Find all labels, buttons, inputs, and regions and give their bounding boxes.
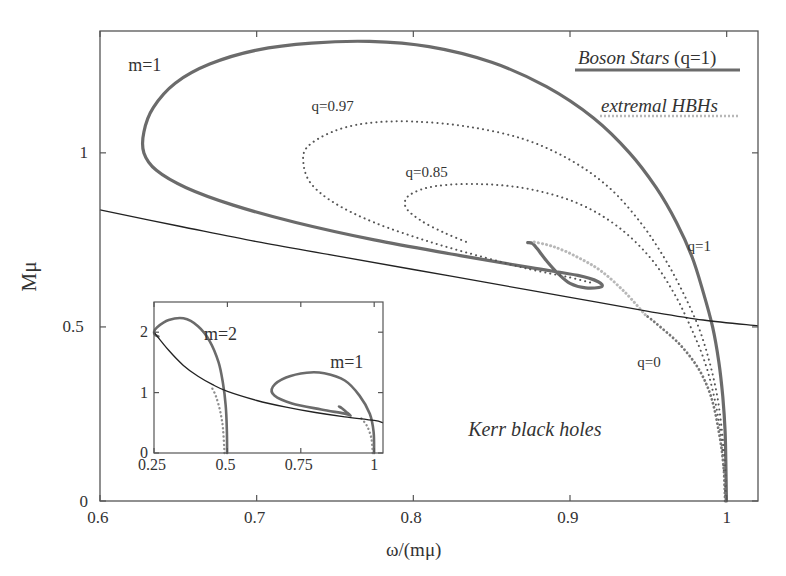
- legend-boson-stars: Boson Stars (q=1): [578, 48, 716, 67]
- inset-x-tick-label: 1: [370, 457, 378, 473]
- inset-background: [154, 302, 383, 453]
- main-x-tick-label: 1: [722, 509, 731, 526]
- inset-x-tick-label: 0.75: [285, 457, 313, 473]
- inset-annotation-m-1: m=1: [330, 353, 363, 371]
- y-axis-label: Mμ: [19, 262, 40, 292]
- inset-annotation-m-2: m=2: [204, 325, 237, 343]
- legend-boson-stars-suffix: (q=1): [669, 47, 716, 68]
- main-annotation-kerr-black-holes: Kerr black holes: [468, 419, 601, 439]
- legend-extremal-hbhs: extremal HBHs: [601, 96, 718, 115]
- inset-y-tick-label: 1: [140, 385, 148, 401]
- inset-y-tick-label: 0: [140, 445, 148, 461]
- main-y-tick-label: 0: [80, 493, 89, 510]
- series-q-0-85: [405, 184, 726, 501]
- series-q-0: [645, 315, 725, 501]
- main-annotation-q-0-97: q=0.97: [312, 99, 354, 114]
- main-annotation-q-0: q=0: [637, 355, 660, 370]
- x-axis-label: ω/(mμ): [386, 540, 441, 559]
- main-annotation-q-0-85: q=0.85: [406, 165, 448, 180]
- main-x-tick-label: 0.7: [244, 509, 265, 526]
- main-y-tick-label: 1: [80, 144, 89, 161]
- inset-y-tick-label: 2: [140, 324, 148, 340]
- main-annotation-m-1: m=1: [128, 56, 161, 74]
- chart-canvas: [0, 0, 786, 576]
- main-annotation-q-1: q=1: [688, 239, 711, 254]
- inset-x-tick-label: 0.5: [215, 457, 235, 473]
- main-y-tick-label: 0.5: [63, 318, 84, 335]
- main-x-tick-label: 0.8: [401, 509, 422, 526]
- main-x-tick-label: 0.9: [557, 509, 578, 526]
- main-x-tick-label: 0.6: [87, 509, 108, 526]
- legend-boson-stars-label: Boson Stars: [578, 47, 669, 68]
